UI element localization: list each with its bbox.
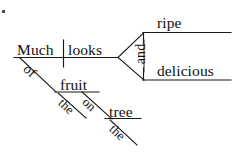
word-object-fruit: fruit <box>60 77 87 93</box>
word-complement-delicious: delicious <box>157 63 214 79</box>
word-object-tree: tree <box>109 104 133 120</box>
word-verb-looks: looks <box>68 42 102 58</box>
word-subject-much: Much <box>17 42 54 58</box>
sentence-diagram-canvas: Much looks ripe delicious and of fruit t… <box>0 0 232 156</box>
word-conjunction-and: and <box>134 44 148 65</box>
word-complement-ripe: ripe <box>157 15 182 31</box>
